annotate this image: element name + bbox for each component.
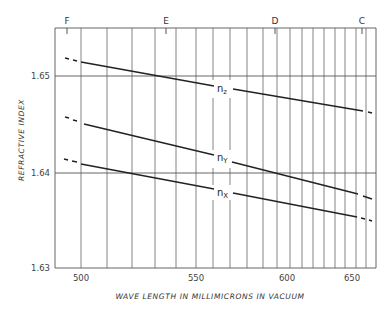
- curve-label-nx: nX: [217, 187, 228, 200]
- marker-C: C: [359, 16, 365, 26]
- vertical-gridlines: [81, 28, 366, 268]
- x-tick-550: 550: [188, 273, 204, 283]
- fraunhofer-markers: [67, 28, 362, 34]
- plot-frame: [55, 28, 376, 268]
- marker-E: E: [163, 16, 169, 26]
- y-tick-1.65: 1.65: [31, 71, 50, 81]
- y-tick-1.63: 1.63: [31, 263, 50, 273]
- refractive-index-chart: F E D C 1.65 1.64 1.63 500 550 600 650 W…: [0, 0, 392, 310]
- x-tick-600: 600: [279, 273, 295, 283]
- x-tick-650: 650: [344, 273, 360, 283]
- marker-F: F: [64, 16, 69, 26]
- x-axis-title: WAVE LENGTH IN MILLIMICRONS IN VACUUM: [115, 292, 304, 301]
- x-tick-500: 500: [73, 273, 89, 283]
- y-tick-1.64: 1.64: [31, 168, 50, 178]
- horizontal-gridlines: [55, 76, 376, 173]
- curve-label-nz: nz: [217, 83, 227, 96]
- marker-D: D: [272, 16, 279, 26]
- y-axis-title: REFRACTIVE INDEX: [17, 99, 26, 181]
- curve-label-ny: nY: [217, 152, 228, 165]
